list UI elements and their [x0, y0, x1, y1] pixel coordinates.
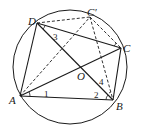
angle-arc-C [114, 43, 116, 46]
label-B: B [116, 100, 123, 112]
angle-arc-2 [106, 95, 108, 100]
segment-BC [113, 48, 121, 100]
segment-DA [20, 23, 37, 96]
angle-label-1: 1 [44, 89, 49, 99]
circle-quadrilateral-figure: A B C D C′ O 1 2 3 4 [0, 0, 142, 136]
label-A: A [8, 94, 16, 106]
segment-AC [20, 48, 121, 96]
geometry-diagram: A B C D C′ O 1 2 3 4 [0, 0, 142, 136]
angle-label-2: 2 [94, 90, 99, 100]
label-D: D [27, 15, 36, 27]
label-C-prime: C′ [87, 6, 97, 18]
segment-C-prime-B [90, 17, 113, 100]
angle-arc-4 [109, 92, 111, 93]
angle-label-3: 3 [53, 32, 58, 42]
angle-arc-3 [43, 26, 45, 30]
segment-AB [20, 96, 113, 100]
angle-arc-1 [29, 92, 30, 97]
label-O: O [77, 70, 85, 82]
label-C: C [123, 42, 131, 54]
circumcircle [13, 10, 127, 124]
segment-DC-prime [37, 17, 90, 23]
angle-label-4: 4 [99, 77, 104, 87]
